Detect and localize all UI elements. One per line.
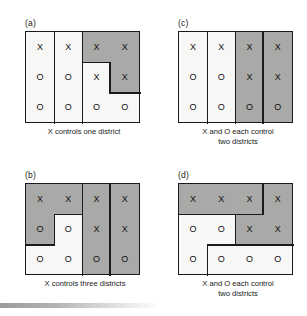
cell-r2c1: O [207, 244, 235, 274]
cell-r1c3: X [264, 214, 292, 244]
cell-r0c3: X [264, 32, 292, 62]
decorative-gradient-bar [0, 303, 160, 308]
panel-d-caption-line2: two districts [178, 289, 298, 300]
cell-r2c3: O [111, 244, 139, 274]
cell-r1c2: X [83, 62, 111, 92]
panel-b-label: (b) [25, 170, 145, 181]
panel-d-caption-line1: X and O each control [178, 279, 298, 290]
cell-r0c2: X [236, 184, 264, 214]
cell-r0c0: X [179, 32, 207, 62]
cell-r0c0: X [26, 32, 54, 62]
cell-r2c2: O [83, 244, 111, 274]
district-edge-a5 [109, 92, 141, 94]
panel-b-grid: X X X X O O X X O O O O [25, 183, 140, 275]
cell-r1c1: O [207, 62, 235, 92]
cell-r2c0: O [26, 244, 54, 274]
cell-r2c3: O [264, 92, 292, 122]
district-edge-d2 [262, 184, 264, 215]
cell-r1c0: O [26, 214, 54, 244]
panel-a-grid: X X X X O O X X O O O O [25, 31, 140, 123]
cell-r0c1: X [54, 184, 82, 214]
cell-r1c1: O [54, 62, 82, 92]
cell-r1c0: O [26, 62, 54, 92]
district-edge-c2 [235, 32, 237, 124]
panel-c-caption-line2: two districts [178, 137, 298, 148]
cell-r0c3: X [111, 184, 139, 214]
cell-r0c3: X [111, 32, 139, 62]
cell-r0c2: X [236, 32, 264, 62]
panel-c-grid: X X X X O O X X O O O O [178, 31, 293, 123]
cell-r1c3: X [111, 214, 139, 244]
panel-d-caption: X and O each control two districts [178, 279, 298, 300]
panel-c-caption: X and O each control two districts [178, 127, 298, 148]
district-edge-a1 [54, 32, 56, 124]
cell-r2c2: O [83, 92, 111, 122]
cell-r1c1: O [54, 214, 82, 244]
cell-r2c3: O [111, 92, 139, 122]
cell-r1c2: X [83, 214, 111, 244]
cell-r1c3: X [264, 62, 292, 92]
cell-r1c3: X [111, 62, 139, 92]
district-edge-d1 [179, 214, 264, 216]
district-edge-b5 [26, 244, 55, 246]
cell-r1c2: X [236, 214, 264, 244]
cell-r0c0: X [26, 184, 54, 214]
cell-r1c1: O [207, 214, 235, 244]
cell-r2c1: O [54, 244, 82, 274]
cell-r2c2: O [236, 244, 264, 274]
cell-r2c1: O [54, 92, 82, 122]
panel-c-label: (c) [178, 18, 298, 29]
cell-r0c1: X [54, 32, 82, 62]
panel-d-grid: X X X X O O X X O O O O [178, 183, 293, 275]
district-edge-a4 [109, 62, 111, 94]
cell-r1c0: O [179, 62, 207, 92]
district-edge-d6 [207, 244, 236, 246]
panel-a: (a) X X X X O O X X O O O O [25, 18, 143, 137]
district-edge-a3 [82, 62, 111, 64]
panel-c: (c) X X X X O O X X O O O O X and O each… [178, 18, 298, 148]
cell-r0c2: X [83, 32, 111, 62]
panel-c-grid-wrap: X X X X O O X X O O O O [178, 31, 298, 123]
cell-r0c1: X [207, 184, 235, 214]
panel-d-grid-wrap: X X X X O O X X O O O O [178, 183, 298, 275]
panel-b-caption: X controls three districts [25, 279, 145, 290]
cell-r2c2: O [236, 92, 264, 122]
cell-r2c3: O [264, 244, 292, 274]
panel-b: (b) X X X X O O X X O O O O [25, 170, 145, 289]
cell-r1c2: X [236, 62, 264, 92]
cell-r2c0: O [179, 244, 207, 274]
cell-r1c0: O [179, 214, 207, 244]
cell-r0c1: X [207, 32, 235, 62]
district-edge-a2 [82, 32, 84, 124]
cell-r0c3: X [264, 184, 292, 214]
district-edge-b4 [54, 214, 56, 246]
panel-a-caption: X controls one district [25, 127, 143, 138]
panel-a-grid-wrap: X X X X O O X X O O O O [25, 31, 143, 123]
cell-r0c2: X [83, 184, 111, 214]
panel-b-grid-wrap: X X X X O O X X O O O O [25, 183, 145, 275]
district-edge-c3 [262, 32, 264, 124]
panel-d: (d) X X X X O O X X O O O O [178, 170, 298, 300]
district-edge-d3 [235, 214, 237, 246]
cell-r2c0: O [179, 92, 207, 122]
district-edge-b3 [54, 214, 83, 216]
cell-r2c0: O [26, 92, 54, 122]
gerrymandering-figure: (a) X X X X O O X X O O O O [0, 0, 307, 316]
panel-d-label: (d) [178, 170, 298, 181]
cell-r0c0: X [179, 184, 207, 214]
district-edge-b1 [82, 184, 84, 276]
district-edge-d5 [207, 244, 209, 276]
cell-r2c1: O [207, 92, 235, 122]
district-edge-c1 [207, 32, 209, 124]
district-edge-b2 [109, 184, 111, 276]
panel-a-label: (a) [25, 18, 143, 29]
district-edge-d4 [235, 244, 295, 246]
panel-c-caption-line1: X and O each control [178, 127, 298, 138]
